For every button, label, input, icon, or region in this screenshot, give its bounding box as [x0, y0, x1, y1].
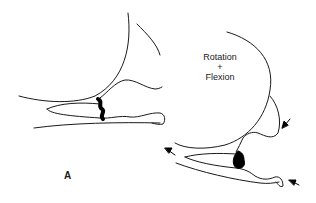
- left-base-line: [34, 123, 160, 128]
- annotation-line-rotation: Rotation: [184, 52, 256, 62]
- panel-label: A: [64, 170, 71, 181]
- right-lower-tongue: [185, 153, 236, 157]
- arrow-lower-right: [289, 180, 299, 185]
- annotation-line-plus: +: [184, 62, 256, 72]
- left-fracture-mark: [98, 99, 103, 119]
- left-lower-tongue: [47, 103, 100, 109]
- left-head-curve: [19, 13, 129, 102]
- rotation-flexion-annotation: Rotation + Flexion: [184, 52, 256, 82]
- anatomical-drawing: [0, 0, 316, 203]
- diagram-canvas: Rotation + Flexion A: [0, 0, 316, 203]
- right-upper-process: [236, 96, 280, 152]
- arrow-left: [165, 148, 175, 155]
- annotation-line-flexion: Flexion: [184, 72, 256, 82]
- right-base-line: [176, 163, 279, 183]
- left-upper-process: [100, 80, 162, 98]
- arrow-upper-right: [282, 119, 290, 128]
- right-head-curve: [175, 32, 271, 148]
- left-lower-tongue-bottom: [47, 109, 165, 124]
- left-figure: [19, 13, 165, 128]
- left-facet-curve: [137, 24, 160, 55]
